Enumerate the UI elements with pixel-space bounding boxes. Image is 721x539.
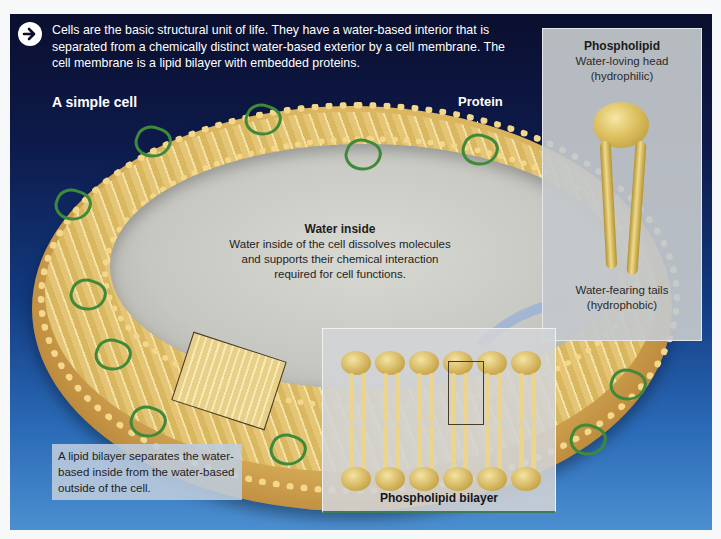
head-label: Water-loving head <box>576 55 669 67</box>
intro-text: Cells are the basic structural unit of l… <box>52 22 522 72</box>
tails-sublabel: (hydrophobic) <box>587 299 657 311</box>
arrow-right-circle-icon <box>18 22 42 46</box>
phospholipid-tail-icon <box>600 141 618 269</box>
simple-cell-label: A simple cell <box>52 94 137 110</box>
lipid-head-icon <box>511 467 541 491</box>
lipid-head-icon <box>443 467 473 491</box>
lipid-head-icon <box>409 351 439 375</box>
tails-caption: Water-fearing tails (hydrophobic) <box>543 283 701 313</box>
phospholipid-tail-icon <box>626 141 646 275</box>
bilayer-label: Phospholipid bilayer <box>323 491 555 505</box>
lipid-bilayer-note: A lipid bilayer separates the water-base… <box>52 444 242 500</box>
lipid-head-icon <box>341 467 371 491</box>
lipid-head-icon <box>409 467 439 491</box>
head-sublabel: (hydrophilic) <box>591 70 654 82</box>
lipid-head-icon <box>375 351 405 375</box>
protein-label: Protein <box>458 94 503 109</box>
lipid-head-icon <box>477 467 507 491</box>
phospholipid-inset: Phospholipid Water-loving head (hydrophi… <box>542 28 702 341</box>
water-inside-body: Water inside of the cell dissolves molec… <box>229 238 450 280</box>
bilayer-inset: Phospholipid bilayer <box>322 328 556 513</box>
diagram-panel: Cells are the basic structural unit of l… <box>10 14 712 530</box>
water-inside-caption: Water inside Water inside of the cell di… <box>225 222 455 282</box>
phospholipid-title: Phospholipid <box>543 39 701 53</box>
tails-label: Water-fearing tails <box>576 284 669 296</box>
lipid-head-icon <box>375 467 405 491</box>
lipid-head-icon <box>341 351 371 375</box>
phospholipid-selection-box <box>448 361 484 425</box>
head-caption: Water-loving head (hydrophilic) <box>543 54 701 84</box>
lipid-head-icon <box>511 351 541 375</box>
water-inside-title: Water inside <box>305 222 376 236</box>
